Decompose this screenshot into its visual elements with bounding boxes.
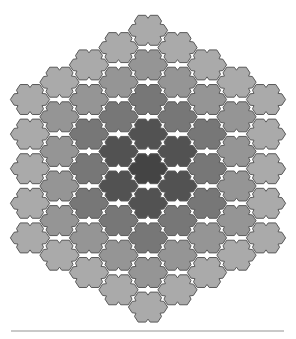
hex-tile	[187, 188, 226, 218]
hex-tile	[40, 67, 79, 97]
hex-tile	[187, 154, 226, 184]
hex-tile	[246, 188, 285, 218]
hex-tile	[10, 85, 49, 115]
hex-tile	[69, 50, 108, 80]
hex-tile	[99, 240, 138, 270]
hex-tile	[99, 102, 138, 132]
hex-tile	[217, 240, 256, 270]
hex-tile	[99, 275, 138, 305]
hex-tile	[217, 102, 256, 132]
hex-tile	[128, 85, 167, 115]
hex-tile	[158, 240, 197, 270]
hex-tile	[158, 136, 197, 166]
hex-tile	[187, 119, 226, 149]
hex-tile	[128, 15, 167, 45]
hex-tile	[128, 258, 167, 288]
hex-tile	[128, 154, 167, 184]
hex-tile	[128, 292, 167, 322]
hex-tile	[69, 188, 108, 218]
hex-tile	[128, 188, 167, 218]
hex-tile	[158, 67, 197, 97]
hex-tile	[10, 188, 49, 218]
hex-tiles-group	[10, 15, 285, 322]
hex-tile	[10, 154, 49, 184]
hex-tile	[69, 223, 108, 253]
hex-tile	[158, 33, 197, 63]
hex-tile	[158, 171, 197, 201]
hex-tile	[187, 85, 226, 115]
hex-tile	[128, 50, 167, 80]
hex-tile	[187, 258, 226, 288]
hex-tile	[217, 171, 256, 201]
hex-tile	[99, 171, 138, 201]
hex-tile	[69, 119, 108, 149]
hex-tile	[246, 223, 285, 253]
hex-tile	[217, 206, 256, 236]
hex-tile	[40, 206, 79, 236]
hex-tile	[69, 85, 108, 115]
hex-tile	[99, 33, 138, 63]
hex-tile	[187, 223, 226, 253]
hex-tile	[217, 136, 256, 166]
hex-tile	[246, 119, 285, 149]
hex-tile	[40, 240, 79, 270]
hex-tile	[99, 206, 138, 236]
hex-tile	[40, 102, 79, 132]
baseline-divider	[11, 330, 284, 332]
hex-tile	[99, 67, 138, 97]
hex-board	[0, 0, 296, 339]
hex-tile	[187, 50, 226, 80]
hex-tile	[217, 67, 256, 97]
hex-tile	[246, 154, 285, 184]
hex-tile	[40, 136, 79, 166]
hex-tile	[10, 223, 49, 253]
hex-tile	[158, 275, 197, 305]
hex-tile	[69, 154, 108, 184]
hex-tile	[10, 119, 49, 149]
hex-tile	[128, 223, 167, 253]
hex-tile	[128, 119, 167, 149]
hex-tile	[40, 171, 79, 201]
hex-tile	[158, 206, 197, 236]
hex-tile	[158, 102, 197, 132]
hex-tile	[246, 85, 285, 115]
hex-tile	[99, 136, 138, 166]
hex-tile	[69, 258, 108, 288]
